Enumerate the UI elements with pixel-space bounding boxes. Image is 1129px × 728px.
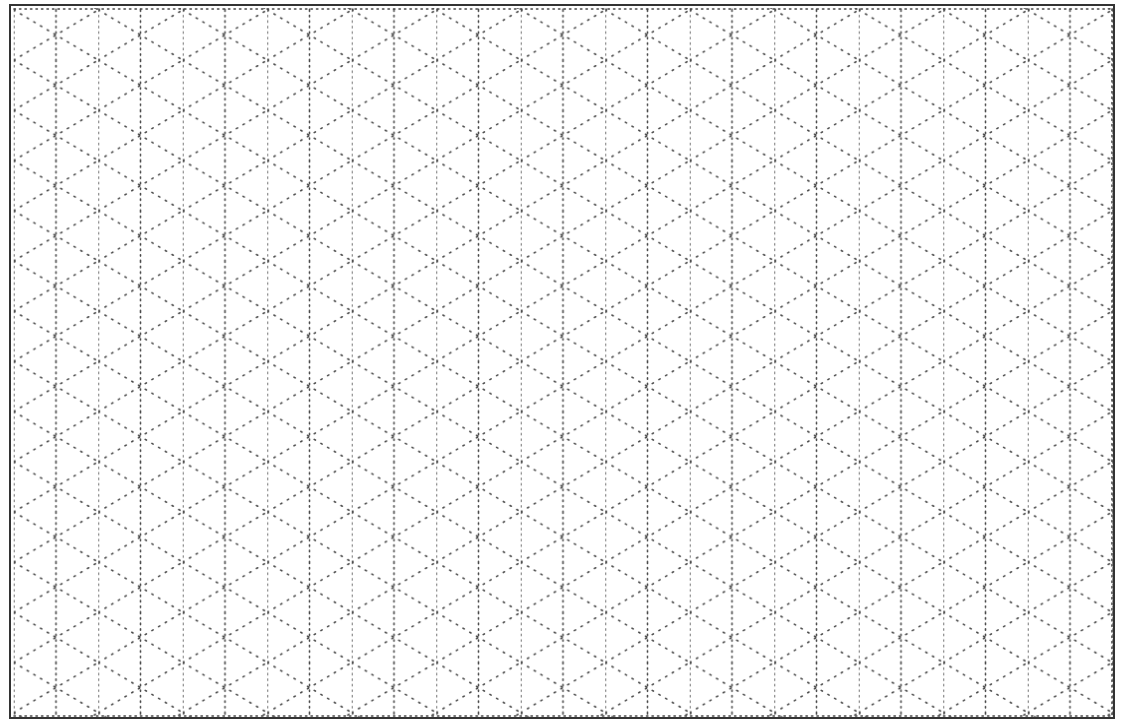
isometric-grid (0, 0, 1129, 728)
grid-fill (13, 8, 1113, 717)
